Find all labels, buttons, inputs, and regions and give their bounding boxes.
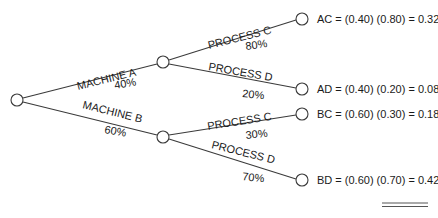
b-process-d-prob: 70% [242, 170, 265, 184]
machine-b-node [157, 131, 169, 143]
b-process-c-prob: 30% [245, 127, 268, 141]
outcome-bc-node [296, 108, 308, 120]
outcome-ac-text: AC = (0.40) (0.80) = 0.32 [317, 13, 438, 25]
outcome-ac-node [296, 13, 308, 25]
outcome-ad-text: AD = (0.40) (0.20) = 0.08 [317, 83, 438, 95]
outcome-bd-text: BD = (0.60) (0.70) = 0.42 [317, 174, 438, 186]
machine-a-node [157, 56, 169, 68]
outcome-bc-text: BC = (0.60) (0.30) = 0.18 [317, 108, 438, 120]
machine-a-prob: 40% [113, 75, 137, 91]
a-process-d-prob: 20% [242, 87, 265, 101]
a-process-d-label: PROCESS D [208, 60, 274, 83]
machine-b-label: MACHINE B [82, 98, 144, 124]
b-process-d-label: PROCESS D [211, 138, 277, 165]
a-process-c-prob: 80% [245, 37, 269, 52]
machine-b-prob: 60% [104, 123, 128, 139]
outcome-ad-node [296, 83, 308, 95]
outcome-bd-node [296, 174, 308, 186]
root-node [11, 94, 23, 106]
probability-tree-diagram: MACHINE A 40% MACHINE B 60% PROCESS C 80… [0, 0, 438, 218]
